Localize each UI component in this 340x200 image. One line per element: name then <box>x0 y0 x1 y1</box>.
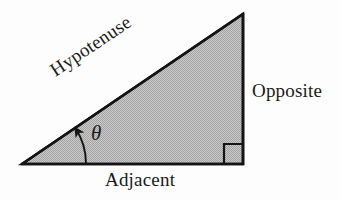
adjacent-label: Adjacent <box>105 170 175 189</box>
opposite-label: Opposite <box>252 81 322 100</box>
theta-angle-label: θ <box>91 123 102 144</box>
trig-triangle-figure: Hypotenuse Opposite Adjacent θ <box>0 0 340 200</box>
